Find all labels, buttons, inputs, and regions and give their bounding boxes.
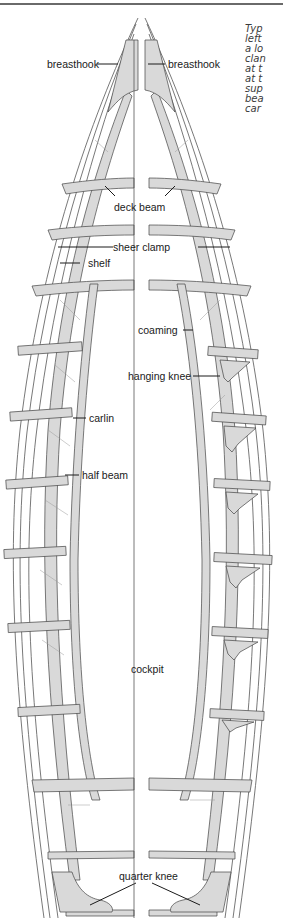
coaming bbox=[177, 284, 210, 800]
caption-line: car bbox=[245, 104, 283, 114]
label-coaming: coaming bbox=[138, 325, 178, 336]
label-half-beam: half beam bbox=[82, 470, 128, 481]
carlin bbox=[70, 284, 100, 800]
label-quarter-knee: quarter knee bbox=[119, 871, 178, 882]
hull-framing-diagram: .ol { fill: none; stroke: #555; stroke-w… bbox=[0, 0, 283, 918]
label-shelf: shelf bbox=[88, 258, 110, 269]
quarter-knee-left bbox=[52, 872, 113, 912]
label-carlin: carlin bbox=[89, 413, 114, 424]
label-breasthook-right: breasthook bbox=[168, 59, 220, 70]
label-cockpit: cockpit bbox=[131, 664, 164, 675]
centerline-gaps bbox=[134, 40, 149, 918]
quarter-knee-right bbox=[171, 872, 232, 912]
caption: Typ left a lo clan at t at t sup bea car bbox=[245, 24, 283, 114]
label-deck-beam: deck beam bbox=[114, 202, 165, 213]
label-hanging-knee: hanging knee bbox=[128, 371, 191, 382]
deck-beams bbox=[32, 178, 251, 296]
label-sheer-clamp: sheer clamp bbox=[113, 242, 170, 253]
label-breasthook-left: breasthook bbox=[47, 59, 99, 70]
